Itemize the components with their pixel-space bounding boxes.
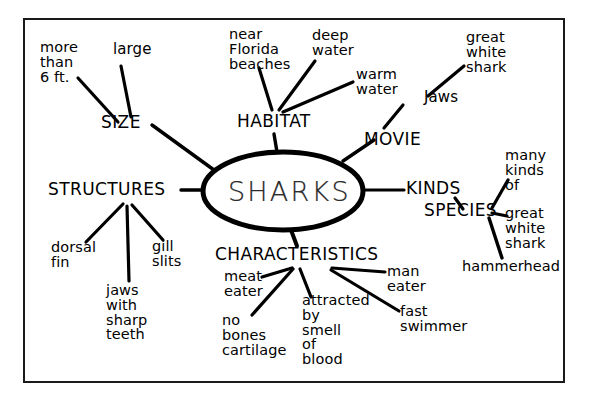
center-topic-sharks[interactable]: SHARKS: [228, 178, 351, 206]
leaf-hammerhead[interactable]: hammerhead: [462, 259, 560, 274]
leaf-dorsal-fin[interactable]: dorsal fin: [51, 240, 96, 270]
branch-label-habitat[interactable]: HABITAT: [237, 113, 311, 130]
edge-habitat-florida: [259, 68, 272, 110]
leaf-large[interactable]: large: [113, 42, 152, 57]
branch-label-kinds[interactable]: KINDS: [406, 180, 461, 197]
leaf-meat-eater[interactable]: meat eater: [224, 269, 263, 299]
edge-struct-gillslits: [132, 205, 163, 240]
leaf-more-than-6ft[interactable]: more than 6 ft.: [40, 40, 78, 84]
leaf-warm-water[interactable]: warm water: [356, 67, 398, 97]
edge-movie-jaws: [384, 105, 403, 128]
leaf-species-great-white-shark[interactable]: great white shark: [505, 206, 546, 250]
edge-center-size: [152, 125, 214, 170]
mind-map-canvas: SHARKS SIZE more than 6 ft. large HABITA…: [0, 0, 597, 403]
leaf-many-kinds-of[interactable]: many kinds of: [505, 148, 546, 192]
leaf-gill-slits[interactable]: gill slits: [152, 239, 181, 269]
leaf-jaws-with-sharp-teeth[interactable]: jaws with sharp teeth: [106, 283, 147, 342]
edge-species-hammerhead: [489, 218, 502, 258]
leaf-movie-great-white-shark[interactable]: great white shark: [466, 30, 507, 74]
edge-size-large: [121, 66, 131, 117]
edge-struct-dorsalfin: [86, 204, 123, 242]
leaf-near-florida-beaches[interactable]: near Florida beaches: [229, 27, 290, 71]
edge-struct-jaws: [127, 206, 129, 281]
branch-label-characteristics[interactable]: CHARACTERISTICS: [215, 246, 378, 263]
leaf-man-eater[interactable]: man eater: [387, 264, 426, 294]
leaf-jaws[interactable]: Jaws: [424, 90, 458, 105]
leaf-attracted-by-smell-of-blood[interactable]: attracted by smell of blood: [302, 293, 370, 367]
leaf-deep-water[interactable]: deep water: [312, 28, 354, 58]
edge-habitat-warm: [283, 82, 353, 112]
edge-center-habitat: [274, 134, 277, 152]
branch-label-size[interactable]: SIZE: [101, 114, 141, 131]
branch-label-movie[interactable]: MOVIE: [364, 131, 421, 148]
branch-label-structures[interactable]: STRUCTURES: [48, 181, 165, 198]
edge-char-maneater: [332, 268, 385, 272]
branch-label-species[interactable]: SPECIES: [424, 202, 497, 219]
leaf-no-bones-cartilage[interactable]: no bones cartilage: [222, 313, 286, 357]
leaf-fast-swimmer[interactable]: fast swimmer: [400, 304, 467, 334]
